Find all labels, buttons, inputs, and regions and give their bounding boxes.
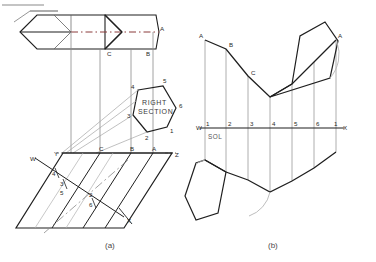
label-station-3: 3 — [250, 120, 254, 127]
label-section-3: 3 — [127, 112, 131, 119]
lower-attached-hexagon — [185, 160, 270, 220]
caption-a: (a) — [105, 241, 115, 250]
label-section-2: 2 — [145, 134, 149, 141]
label-b-A-right: A — [338, 32, 343, 39]
label-W-a: W — [30, 155, 36, 162]
development-upper-profile — [205, 40, 336, 97]
label-wx-3: 3 — [60, 180, 64, 187]
label-station-1a: 1 — [206, 120, 210, 127]
oblique-prism-front-view — [16, 153, 172, 228]
figure-root: A B C 4 5 6 1 2 3 RIGHT SECTION Y Z C B … — [0, 0, 376, 262]
label-section-6: 6 — [179, 102, 183, 109]
label-X-b: X — [343, 124, 347, 131]
development-lower-profile — [205, 152, 336, 192]
label-wx-2: 2 — [89, 191, 93, 198]
label-section-5: 5 — [163, 77, 167, 84]
label-W-b: W — [196, 124, 202, 131]
label-a-front-B: B — [130, 145, 134, 152]
label-station-2: 2 — [228, 120, 232, 127]
label-X-a: X — [127, 217, 131, 224]
label-SOL: SOL — [208, 133, 222, 140]
label-Z: Z — [175, 151, 179, 158]
label-b-B: B — [229, 41, 233, 48]
label-a-topview-B: B — [146, 50, 150, 57]
label-a-front-A: A — [152, 145, 157, 152]
top-view-hexagon — [20, 15, 159, 49]
upper-attached-hexagon — [270, 22, 339, 97]
label-b-C: C — [251, 69, 256, 76]
label-station-6: 6 — [316, 120, 320, 127]
label-station-4: 4 — [272, 120, 276, 127]
label-wx-5: 5 — [60, 189, 64, 196]
label-wx-6: 6 — [89, 201, 93, 208]
label-station-5: 5 — [294, 120, 298, 127]
construction-rays — [62, 90, 147, 153]
label-section-1: 1 — [170, 127, 174, 134]
development-station-lines — [205, 40, 336, 192]
label-section-4: 4 — [131, 83, 135, 90]
part-a-group — [16, 15, 176, 233]
technical-drawing-canvas: A B C 4 5 6 1 2 3 RIGHT SECTION Y Z C B … — [0, 0, 376, 262]
label-Y: Y — [54, 150, 58, 157]
WX-cut-line — [35, 158, 132, 224]
label-a-front-C: C — [99, 145, 104, 152]
label-b-A-left: A — [199, 32, 204, 39]
label-wx-4: 4 — [52, 170, 56, 177]
label-a-topview-C: C — [107, 50, 112, 57]
label-a-topview-A: A — [160, 25, 165, 32]
right-section-caption-line1: RIGHT — [142, 99, 167, 106]
label-station-1b: 1 — [334, 120, 338, 127]
page-edge-artifact — [2, 5, 58, 22]
caption-b: (b) — [268, 241, 278, 250]
right-section-caption-line2: SECTION — [138, 108, 173, 115]
label-layer: A B C 4 5 6 1 2 3 RIGHT SECTION Y Z C B … — [30, 25, 347, 250]
